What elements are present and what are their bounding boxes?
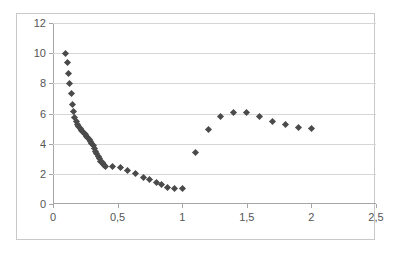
data-point: [65, 70, 72, 77]
x-tick-1,5: [247, 204, 248, 208]
plot-area: 024681012 00,511,522,5: [53, 23, 376, 204]
chart-frame: 024681012 00,511,522,5: [16, 13, 375, 240]
gridline-y-12: [53, 23, 376, 24]
gridline-y-6: [53, 114, 376, 115]
y-tick-10: [49, 53, 53, 54]
y-tick-label-8: 8: [40, 77, 46, 89]
data-point: [68, 90, 75, 97]
y-tick-label-6: 6: [40, 108, 46, 120]
y-tick-6: [49, 114, 53, 115]
y-tick-2: [49, 174, 53, 175]
data-point: [243, 109, 250, 116]
x-tick-label-1: 1: [179, 211, 185, 223]
data-point: [64, 59, 71, 66]
gridline-y-2: [53, 174, 376, 175]
x-tick-label-0: 0: [50, 211, 56, 223]
x-tick-1: [182, 204, 183, 208]
data-point: [117, 164, 124, 171]
y-tick-label-4: 4: [40, 138, 46, 150]
x-tick-label-2,5: 2,5: [368, 211, 383, 223]
x-tick-label-1,5: 1,5: [239, 211, 254, 223]
data-point: [69, 101, 76, 108]
y-tick-label-0: 0: [40, 198, 46, 210]
x-tick-label-0,5: 0,5: [110, 211, 125, 223]
data-point: [179, 185, 186, 192]
data-point: [204, 126, 211, 133]
x-tick-2: [311, 204, 312, 208]
x-tick-label-2: 2: [308, 211, 314, 223]
x-tick-0,5: [118, 204, 119, 208]
data-point: [295, 124, 302, 131]
y-tick-4: [49, 144, 53, 145]
x-axis-line: [53, 203, 376, 204]
y-tick-label-12: 12: [34, 17, 46, 29]
data-point: [308, 125, 315, 132]
data-point: [269, 117, 276, 124]
gridline-y-4: [53, 144, 376, 145]
data-point: [132, 170, 139, 177]
y-tick-12: [49, 23, 53, 24]
gridline-y-10: [53, 53, 376, 54]
data-point: [66, 80, 73, 87]
y-tick-8: [49, 83, 53, 84]
x-tick-2,5: [376, 204, 377, 208]
data-point: [62, 50, 69, 57]
y-tick-label-10: 10: [34, 47, 46, 59]
data-point: [109, 163, 116, 170]
data-point: [192, 149, 199, 156]
data-point: [230, 109, 237, 116]
data-point: [282, 121, 289, 128]
y-tick-label-2: 2: [40, 168, 46, 180]
x-tick-0: [53, 204, 54, 208]
data-point: [171, 185, 178, 192]
gridline-y-8: [53, 83, 376, 84]
